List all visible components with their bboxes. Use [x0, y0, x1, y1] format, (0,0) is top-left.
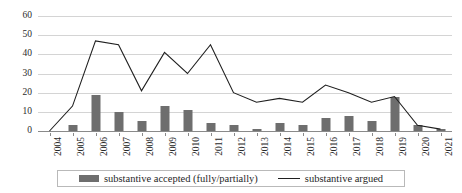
gridline [38, 131, 452, 132]
y-axis-tick-label: 60 [0, 11, 32, 21]
x-axis-tick-mark [188, 133, 189, 136]
x-axis-tick-label: 2004 [54, 137, 64, 156]
legend-entry-substantive-argued: substantive argued [278, 173, 383, 184]
chart-figure: 2004200520062007200820092010201120122013… [0, 0, 462, 193]
x-axis-tick-label: 2005 [77, 137, 87, 156]
x-axis: 2004200520062007200820092010201120122013… [38, 133, 452, 167]
x-axis-tick-mark [257, 133, 258, 136]
plot-area [38, 16, 452, 131]
x-axis-tick-mark [395, 133, 396, 136]
legend-label-substantive-accepted: substantive accepted (fully/partially) [104, 173, 258, 184]
x-axis-tick-label: 2007 [123, 137, 133, 156]
x-axis-tick-mark [234, 133, 235, 136]
y-axis-tick-label: 10 [0, 107, 32, 117]
x-axis-tick-mark [119, 133, 120, 136]
y-axis-tick-label: 40 [0, 49, 32, 59]
x-axis-tick-mark [73, 133, 74, 136]
x-axis-tick-label: 2015 [307, 137, 317, 156]
x-axis-tick-mark [303, 133, 304, 136]
y-axis-tick-label: 20 [0, 88, 32, 98]
x-axis-tick-mark [418, 133, 419, 136]
x-axis-tick-mark [372, 133, 373, 136]
bar-swatch-icon [79, 175, 99, 182]
x-axis-tick-mark [165, 133, 166, 136]
x-axis-tick-label: 2014 [284, 137, 294, 156]
chart-legend: substantive accepted (fully/partially) s… [57, 170, 405, 187]
legend-entry-substantive-accepted: substantive accepted (fully/partially) [79, 173, 258, 184]
x-axis-tick-label: 2009 [169, 137, 179, 156]
x-axis-tick-label: 2021 [445, 137, 455, 156]
x-axis-tick-label: 2006 [100, 137, 110, 156]
x-axis-tick-label: 2020 [422, 137, 432, 156]
y-axis-tick-label: 30 [0, 69, 32, 79]
x-axis-tick-label: 2012 [238, 137, 248, 156]
x-axis-tick-mark [211, 133, 212, 136]
y-axis-tick-label: 0 [0, 126, 32, 136]
x-axis-tick-label: 2011 [215, 137, 225, 156]
x-axis-tick-label: 2018 [376, 137, 386, 156]
x-axis-tick-mark [441, 133, 442, 136]
line-series-substantive-argued [38, 16, 452, 131]
x-axis-tick-label: 2017 [353, 137, 363, 156]
x-axis-tick-mark [142, 133, 143, 136]
x-axis-tick-mark [96, 133, 97, 136]
x-axis-tick-label: 2019 [399, 137, 409, 156]
x-axis-tick-label: 2010 [192, 137, 202, 156]
x-axis-tick-mark [326, 133, 327, 136]
line-path [50, 41, 441, 131]
x-axis-tick-mark [349, 133, 350, 136]
line-swatch-icon [278, 178, 300, 179]
x-axis-tick-label: 2013 [261, 137, 271, 156]
x-axis-tick-label: 2016 [330, 137, 340, 156]
x-axis-tick-mark [50, 133, 51, 136]
x-axis-tick-label: 2008 [146, 137, 156, 156]
legend-label-substantive-argued: substantive argued [305, 173, 383, 184]
x-axis-tick-mark [280, 133, 281, 136]
y-axis-tick-label: 50 [0, 30, 32, 40]
